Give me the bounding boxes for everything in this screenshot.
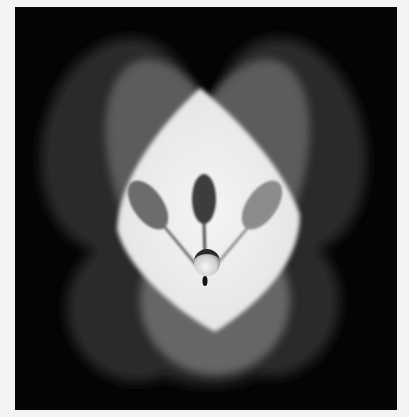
photograph: Grayscale photograph of overlapping soft… xyxy=(15,7,397,410)
paddle-head-center xyxy=(192,174,216,224)
sphere-tip xyxy=(203,276,208,286)
light-lobes-artwork xyxy=(15,7,397,410)
